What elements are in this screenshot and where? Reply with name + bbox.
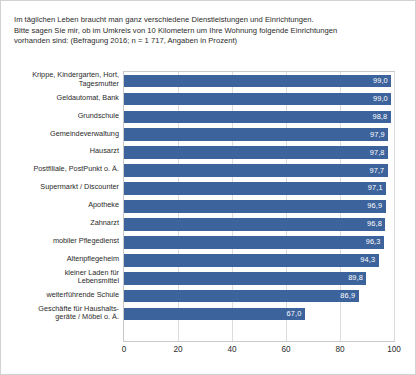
category-label-line: Lebensmittel (9, 277, 119, 286)
x-tick-label-20: 20 (173, 345, 182, 354)
caption-line-1: Im täglichen Leben braucht man ganz vers… (14, 15, 406, 26)
bar-row[interactable]: 96,9 (124, 198, 394, 216)
caption-line-3: vorhanden sind: (Befragung 2016; n = 1 7… (14, 36, 406, 47)
bar-value-label: 98,8 (124, 111, 391, 124)
chart-caption: Im täglichen Leben braucht man ganz vers… (14, 15, 406, 47)
bar-value-label: 96,8 (124, 218, 385, 231)
x-tick-label-0: 0 (122, 345, 127, 354)
bar-row[interactable]: 97,7 (124, 162, 394, 180)
category-label: Postfiliale, PostPunkt o. Ä. (9, 161, 119, 179)
category-label: mobiler Pflegedienst (9, 232, 119, 250)
x-tick-label-100: 100 (387, 345, 401, 354)
bar-row[interactable]: 67,0 (124, 305, 394, 323)
bar-value-label: 67,0 (124, 308, 305, 321)
chart-figure: Im täglichen Leben braucht man ganz vers… (0, 0, 416, 375)
bar-value-label: 97,9 (124, 129, 388, 142)
category-label: Supermarkt / Discounter (9, 179, 119, 197)
category-label: Gemeindeverwaltung (9, 125, 119, 143)
category-label-line: Postfiliale, PostPunkt o. Ä. (9, 165, 119, 174)
bar-value-label: 86,9 (124, 290, 359, 303)
gridline-100 (394, 72, 395, 341)
bar-row[interactable]: 96,3 (124, 233, 394, 251)
bar-row[interactable]: 89,8 (124, 269, 394, 287)
category-label-line: Zahnarzt (9, 219, 119, 228)
bar-value-label: 96,9 (124, 200, 386, 213)
bar-row[interactable]: 99,0 (124, 72, 394, 90)
bar-row[interactable]: 97,8 (124, 144, 394, 162)
category-label: Hausarzt (9, 143, 119, 161)
bar-row[interactable]: 97,9 (124, 126, 394, 144)
bar-value-label: 97,8 (124, 147, 388, 160)
category-label: weiterführende Schule (9, 286, 119, 304)
value-axis-ticks: 020406080100 (123, 345, 395, 359)
bar-value-label: 94,3 (124, 254, 379, 267)
bar-row[interactable]: 86,9 (124, 287, 394, 305)
category-axis-labels: Krippe, Kindergarten, Hort,TagesmutterGe… (9, 71, 119, 342)
x-tick-label-40: 40 (227, 345, 236, 354)
bar-value-label: 99,0 (124, 75, 391, 88)
category-label-line: Grundschule (9, 112, 119, 121)
bar-row[interactable]: 96,8 (124, 215, 394, 233)
category-label-line: geräte / Möbel o. Ä. (9, 313, 119, 322)
category-label-line: mobiler Pflegedienst (9, 237, 119, 246)
x-tick-label-60: 60 (281, 345, 290, 354)
category-label-line: Tagesmutter (9, 80, 119, 89)
x-tick-label-80: 80 (335, 345, 344, 354)
category-label-line: Gemeindeverwaltung (9, 130, 119, 139)
bar-value-label: 99,0 (124, 93, 391, 106)
bar-value-label: 96,3 (124, 236, 384, 249)
category-label-line: Geldautomat, Bank (9, 94, 119, 103)
bar-row[interactable]: 94,3 (124, 251, 394, 269)
category-label-line: Hausarzt (9, 147, 119, 156)
bar-row[interactable]: 97,1 (124, 180, 394, 198)
category-label-line: Apotheke (9, 201, 119, 210)
category-label-line: Supermarkt / Discounter (9, 183, 119, 192)
category-label: Altenpflegeheim (9, 250, 119, 268)
category-label-line: weiterführende Schule (9, 291, 119, 300)
plot-area: 99,099,098,897,997,897,797,196,996,896,3… (123, 71, 395, 342)
category-label: Zahnarzt (9, 214, 119, 232)
category-label: Krippe, Kindergarten, Hort,Tagesmutter (9, 71, 119, 89)
bar-rows: 99,099,098,897,997,897,797,196,996,896,3… (124, 72, 394, 341)
caption-line-2: Bitte sagen Sie mir, ob im Umkreis von 1… (14, 26, 406, 37)
category-label: Grundschule (9, 107, 119, 125)
bar-row[interactable]: 98,8 (124, 108, 394, 126)
category-label: Geldautomat, Bank (9, 89, 119, 107)
bar-value-label: 89,8 (124, 272, 366, 285)
bar-row[interactable]: 99,0 (124, 90, 394, 108)
category-label: Geschäfte für Haushalts-geräte / Möbel o… (9, 304, 119, 322)
category-label-line: Altenpflegeheim (9, 255, 119, 264)
category-label: Apotheke (9, 197, 119, 215)
category-label: kleiner Laden fürLebensmittel (9, 268, 119, 286)
bar-value-label: 97,7 (124, 165, 388, 178)
bar-value-label: 97,1 (124, 182, 386, 195)
